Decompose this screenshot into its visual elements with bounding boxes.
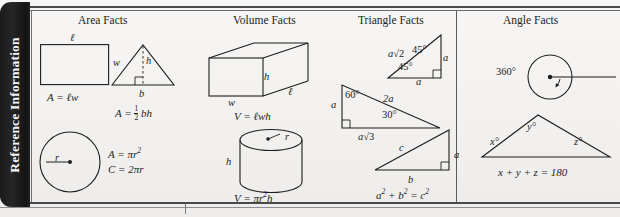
pythagorean-equals-c: = c	[407, 189, 425, 201]
isosceles-hypotenuse-label: a√2	[388, 48, 404, 59]
thirty-sixty-bottom-angle-label: 30°	[382, 109, 397, 120]
pythagorean-theorem-formula: a2 + b2 = c2	[376, 187, 429, 201]
reference-information-panel: Reference Information Area Facts Volume …	[0, 0, 620, 217]
rectangular-prism-figure	[208, 42, 314, 104]
cylinder-volume-formula: V = πr2h	[234, 190, 272, 204]
circle-radius-label: r	[55, 152, 59, 163]
top-border-rule	[30, 6, 620, 8]
pythagorean-plus-b: + b	[385, 189, 403, 201]
isosceles-right-leg-label: a	[443, 52, 448, 63]
area-triangle-base-label: b	[139, 88, 144, 99]
full-rotation-degrees-label: 360°	[496, 66, 516, 77]
circle-area-formula: A = πr2	[108, 146, 141, 160]
area-triangle-formula-lead: A =	[115, 107, 134, 119]
reference-information-tab-label: Reference Information	[7, 37, 23, 173]
full-rotation-circle-figure	[526, 53, 618, 101]
angle-sum-triangle-figure	[480, 113, 612, 161]
circle-area-formula-lead: A = πr	[108, 148, 137, 160]
cylinder-height-label: h	[226, 156, 231, 167]
prism-length-label: ℓ	[288, 86, 292, 97]
angle-y-label: y°	[527, 121, 536, 132]
thirty-sixty-left-leg-label: a	[331, 99, 336, 110]
pythagorean-triangle-figure	[373, 128, 451, 174]
angle-x-label: x°	[490, 136, 499, 147]
angle-z-label: z°	[574, 136, 582, 147]
area-triangle-figure	[110, 43, 176, 87]
thirty-sixty-hypotenuse-label: 2a	[383, 93, 394, 104]
page-edge-rule	[0, 207, 620, 208]
rectangle-length-label: ℓ	[70, 32, 74, 43]
cylinder-volume-rest: h	[267, 192, 273, 204]
rectangle-area-formula: A = ℓw	[47, 91, 78, 103]
heading-triangle-facts: Triangle Facts	[358, 14, 424, 26]
prism-width-label: w	[228, 97, 235, 108]
left-border-rule	[31, 11, 32, 202]
cylinder-volume-lead: V = πr	[234, 192, 263, 204]
cylinder-radius-label: r	[285, 131, 289, 142]
fraction-numerator: 1	[134, 105, 138, 113]
isosceles-left-angle-label: 45°	[398, 61, 413, 72]
top-border-rule-2	[30, 10, 620, 11]
fraction-denominator: 2	[134, 113, 138, 122]
circle-figure	[38, 130, 102, 194]
circle-circumference-formula: C = 2πr	[108, 163, 144, 175]
pythagorean-base-label: b	[408, 174, 413, 185]
thirty-sixty-top-angle-label: 60°	[345, 89, 360, 100]
bottom-border-rule	[30, 202, 620, 204]
column-divider-rule	[456, 11, 457, 202]
heading-area-facts: Area Facts	[78, 14, 128, 26]
area-triangle-formula-rest: bh	[141, 107, 152, 119]
thirty-sixty-base-label: a√3	[358, 131, 374, 142]
pythagorean-vertical-leg-label: a	[454, 149, 459, 160]
reference-information-tab[interactable]: Reference Information	[0, 2, 30, 207]
prism-volume-formula: V = ℓwh	[234, 110, 271, 122]
one-half-fraction: 12	[134, 105, 138, 121]
area-triangle-height-label: h	[146, 55, 151, 66]
pythagorean-c-exponent: 2	[425, 187, 429, 196]
page-tick-mark	[185, 204, 186, 214]
prism-height-label: h	[264, 71, 269, 82]
rectangle-area-formula-lead: A =	[47, 91, 66, 103]
rectangle-figure	[40, 44, 110, 86]
heading-volume-facts: Volume Facts	[233, 14, 296, 26]
circle-area-exponent: 2	[137, 146, 141, 155]
pythagorean-hypotenuse-label: c	[399, 142, 404, 153]
rectangle-area-formula-rest: ℓw	[66, 91, 78, 103]
area-triangle-formula: A = 12 bh	[115, 105, 152, 121]
cylinder-figure	[238, 128, 304, 196]
isosceles-top-angle-label: 45°	[412, 44, 427, 55]
heading-angle-facts: Angle Facts	[503, 14, 558, 26]
angle-sum-formula: x + y + z = 180	[498, 166, 567, 178]
isosceles-hypotenuse-radical: √2	[393, 48, 404, 59]
